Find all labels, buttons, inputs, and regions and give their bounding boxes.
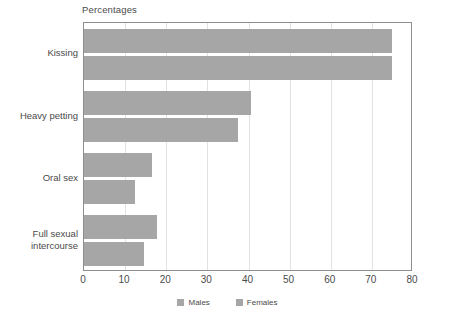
y-axis-label-2: Oral sex <box>0 172 78 184</box>
x-tick-80: 80 <box>406 274 417 285</box>
legend-swatch-icon <box>177 299 184 306</box>
x-axis-tick-labels: 01020304050607080 <box>83 274 412 290</box>
legend-swatch-icon <box>236 299 243 306</box>
y-axis-label-0: Kissing <box>0 47 78 59</box>
x-tick-70: 70 <box>365 274 376 285</box>
bar-males-3 <box>84 215 157 239</box>
legend-label: Females <box>247 298 278 307</box>
x-tick-40: 40 <box>242 274 253 285</box>
plot-area <box>83 22 412 271</box>
y-axis-category-labels: KissingHeavy pettingOral sexFull sexual … <box>0 22 78 271</box>
bar-females-2 <box>84 180 135 204</box>
y-axis-label-1: Heavy petting <box>0 110 78 122</box>
bar-males-0 <box>84 29 392 53</box>
chart-legend: MalesFemales <box>0 298 455 307</box>
legend-item-males[interactable]: Males <box>177 298 209 307</box>
bar-females-3 <box>84 242 144 266</box>
legend-label: Males <box>188 298 209 307</box>
y-axis-label-3: Full sexual intercourse <box>0 228 78 251</box>
bar-males-1 <box>84 91 251 115</box>
x-tick-60: 60 <box>324 274 335 285</box>
bar-females-1 <box>84 118 238 142</box>
bar-females-0 <box>84 56 392 80</box>
bar-males-2 <box>84 153 152 177</box>
legend-item-females[interactable]: Females <box>236 298 278 307</box>
bar-chart: Percentages KissingHeavy pettingOral sex… <box>0 0 455 319</box>
x-tick-20: 20 <box>160 274 171 285</box>
x-tick-30: 30 <box>201 274 212 285</box>
x-tick-0: 0 <box>80 274 86 285</box>
chart-title: Percentages <box>82 4 137 15</box>
x-tick-10: 10 <box>119 274 130 285</box>
x-tick-50: 50 <box>283 274 294 285</box>
